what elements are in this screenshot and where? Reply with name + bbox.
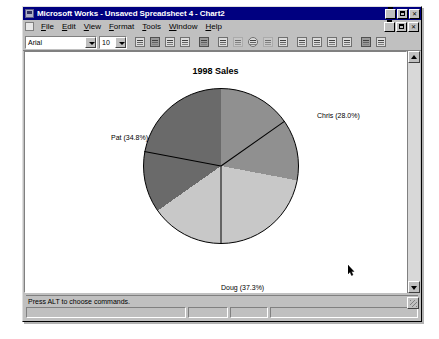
document-minimize-button[interactable]: [384, 22, 395, 32]
pie-chart[interactable]: [143, 88, 299, 244]
legend-icon[interactable]: [340, 35, 354, 49]
spreadsheet-icon[interactable]: [359, 35, 373, 49]
stacked-chart-icon[interactable]: [295, 35, 309, 49]
resize-grip[interactable]: [407, 297, 419, 309]
app-maximize-button[interactable]: [397, 9, 408, 19]
font-name-chevron-down-icon[interactable]: [85, 37, 96, 48]
status-panel-4: [270, 307, 418, 318]
line-chart-icon[interactable]: [231, 35, 245, 49]
pie-slice-divider: [144, 151, 221, 166]
pie-chart-icon[interactable]: [246, 35, 260, 49]
status-panel-group: [26, 307, 418, 318]
chart-title: 1998 Sales: [25, 66, 406, 76]
font-name-combobox[interactable]: Arial: [25, 36, 97, 49]
font-size-value: 10: [100, 37, 115, 48]
font-name-value: Arial: [26, 37, 85, 48]
workspace: 1998 Sales Chris (28.0%) Pat (34.8%) Dou…: [24, 51, 420, 293]
print-preview-icon[interactable]: [178, 35, 192, 49]
app-minimize-button[interactable]: [385, 9, 396, 19]
scroll-down-arrow[interactable]: [408, 281, 420, 293]
mouse-pointer: [348, 265, 355, 276]
chart-canvas[interactable]: 1998 Sales Chris (28.0%) Pat (34.8%) Dou…: [24, 51, 407, 293]
pie-label-pat: Pat (34.8%): [111, 134, 148, 141]
app-window-controls: ✕: [385, 9, 420, 19]
status-panel-1: [26, 307, 186, 318]
menu-item-tools[interactable]: Tools: [138, 21, 165, 33]
three-d-chart-icon[interactable]: [325, 35, 339, 49]
pie-label-chris: Chris (28.0%): [317, 112, 360, 119]
area-chart-icon[interactable]: [261, 35, 275, 49]
menu-bar: File Edit View Format Tools Window Help …: [23, 20, 421, 34]
scrollbar-track[interactable]: [408, 63, 420, 281]
scroll-up-arrow[interactable]: [408, 51, 420, 63]
new-icon[interactable]: [133, 35, 147, 49]
pie-slice-divider: [221, 166, 222, 244]
status-panel-3: [230, 307, 268, 318]
menu-item-format[interactable]: Format: [105, 21, 138, 33]
pie-slices[interactable]: [143, 88, 299, 244]
pie-slice-divider: [221, 121, 285, 167]
document-close-button[interactable]: ✕: [408, 22, 419, 32]
bar-chart-icon[interactable]: [216, 35, 230, 49]
print-icon[interactable]: [163, 35, 177, 49]
app-titlebar[interactable]: Microsoft Works - Unsaved Spreadsheet 4 …: [23, 7, 421, 20]
menu-item-file[interactable]: File: [37, 21, 58, 33]
menu-item-help[interactable]: Help: [201, 21, 225, 33]
menu-item-window[interactable]: Window: [165, 21, 201, 33]
works-app-icon[interactable]: [25, 9, 34, 18]
screen: Microsoft Works - Unsaved Spreadsheet 4 …: [0, 0, 439, 339]
help-pointer-icon[interactable]: [374, 35, 388, 49]
application-window: Microsoft Works - Unsaved Spreadsheet 4 …: [22, 6, 422, 322]
scatter-chart-icon[interactable]: [276, 35, 290, 49]
menu-item-view[interactable]: View: [80, 21, 105, 33]
app-close-button[interactable]: ✕: [409, 9, 420, 19]
combo-chart-icon[interactable]: [310, 35, 324, 49]
status-bar: Press ALT to choose commands.: [24, 294, 420, 320]
app-title-text: Microsoft Works - Unsaved Spreadsheet 4 …: [37, 7, 385, 20]
document-icon[interactable]: [25, 22, 34, 31]
vertical-scrollbar[interactable]: [407, 51, 420, 293]
save-icon[interactable]: [148, 35, 162, 49]
font-size-combobox[interactable]: 10: [99, 36, 127, 49]
cut-icon[interactable]: [197, 35, 211, 49]
document-restore-button[interactable]: [396, 22, 407, 32]
status-message: Press ALT to choose commands.: [26, 295, 418, 306]
menu-item-edit[interactable]: Edit: [58, 21, 80, 33]
document-window-controls: ✕: [384, 22, 421, 32]
font-size-chevron-down-icon[interactable]: [115, 37, 126, 48]
pie-label-doug: Doug (37.3%): [221, 284, 264, 291]
toolbar: Arial 10: [23, 34, 421, 51]
status-panel-2: [188, 307, 228, 318]
